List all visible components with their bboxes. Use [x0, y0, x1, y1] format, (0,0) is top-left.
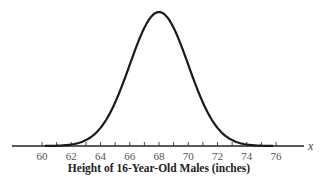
x-tick-label: 68: [154, 150, 166, 162]
x-tick-label: 62: [66, 150, 77, 162]
normal-distribution-curve: [45, 12, 273, 146]
x-tick-label: 60: [37, 150, 49, 162]
x-tick-label: 72: [212, 150, 223, 162]
x-axis-tick-labels: 606264666870727476: [37, 150, 283, 162]
x-tick-label: 76: [271, 150, 283, 162]
x-tick-label: 70: [183, 150, 195, 162]
x-tick-label: 74: [241, 150, 253, 162]
normal-curve-chart: 606264666870727476 x Height of 16-Year-O…: [0, 0, 329, 185]
x-axis-title: Height of 16-Year-Old Males (inches): [68, 162, 250, 175]
x-tick-label: 64: [95, 150, 107, 162]
axis-variable-label: x: [307, 139, 314, 153]
x-tick-label: 66: [124, 150, 136, 162]
